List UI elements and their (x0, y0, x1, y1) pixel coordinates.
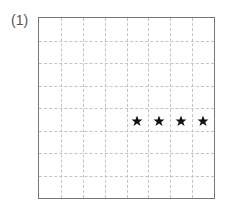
star-icon (175, 113, 187, 125)
grid-line-horizontal (39, 131, 214, 132)
star-icon (197, 113, 209, 125)
square-grid (38, 17, 215, 199)
star-icon (153, 113, 165, 125)
grid-line-horizontal (39, 176, 214, 177)
grid-line-horizontal (39, 108, 214, 109)
star-icon (131, 113, 143, 125)
problem-label: (1) (11, 12, 28, 28)
grid-line-horizontal (39, 63, 214, 64)
grid-line-horizontal (39, 86, 214, 87)
grid-line-horizontal (39, 41, 214, 42)
grid-line-horizontal (39, 153, 214, 154)
